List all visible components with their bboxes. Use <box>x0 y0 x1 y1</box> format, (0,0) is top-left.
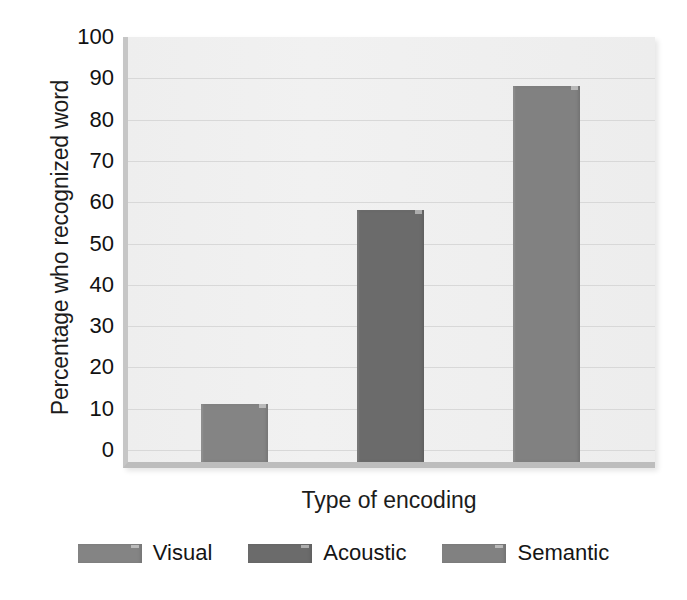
y-axis-tick-label: 100 <box>38 26 114 48</box>
bar-highlight <box>571 86 578 90</box>
legend-swatch <box>442 544 506 563</box>
bar-chart: Percentage who recognized word 010203040… <box>0 0 687 600</box>
bars-layer <box>128 37 655 462</box>
y-axis-tick-label: 0 <box>38 439 114 461</box>
chart-legend: VisualAcousticSemantic <box>0 540 687 566</box>
y-axis-tick-label: 30 <box>38 315 114 337</box>
y-axis-tick-label: 50 <box>38 233 114 255</box>
legend-item-semantic[interactable]: Semantic <box>442 540 609 566</box>
y-axis-tick-label: 40 <box>38 274 114 296</box>
legend-label: Acoustic <box>323 540 406 566</box>
legend-item-visual[interactable]: Visual <box>78 540 213 566</box>
legend-swatch <box>78 544 142 563</box>
y-axis-tick-label: 10 <box>38 398 114 420</box>
legend-label: Visual <box>153 540 213 566</box>
y-axis-tick-label: 60 <box>38 191 114 213</box>
legend-swatch <box>248 544 312 563</box>
bar-acoustic[interactable] <box>357 210 424 462</box>
legend-swatch-highlight <box>131 545 139 548</box>
x-axis-title: Type of encoding <box>123 487 655 514</box>
legend-label: Semantic <box>517 540 609 566</box>
plot-area <box>123 37 655 468</box>
bar-semantic[interactable] <box>513 86 580 462</box>
bar-highlight <box>415 210 422 214</box>
legend-swatch-highlight <box>301 545 309 548</box>
y-axis-tick-labels: 0102030405060708090100 <box>38 0 114 600</box>
y-axis-tick-label: 70 <box>38 150 114 172</box>
bar-visual[interactable] <box>201 404 268 462</box>
bar-highlight <box>259 404 266 408</box>
legend-item-acoustic[interactable]: Acoustic <box>248 540 406 566</box>
y-axis-tick-label: 80 <box>38 109 114 131</box>
legend-swatch-highlight <box>495 545 503 548</box>
y-axis-tick-label: 20 <box>38 356 114 378</box>
y-axis-tick-label: 90 <box>38 67 114 89</box>
